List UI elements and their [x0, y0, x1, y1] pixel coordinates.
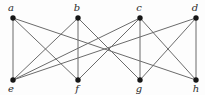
- node-c: [137, 15, 142, 20]
- node-g: [137, 77, 142, 82]
- node-b: [75, 15, 80, 20]
- labels-layer: abcdefgh: [8, 2, 199, 94]
- node-label-f: f: [74, 83, 81, 94]
- graph-figure: abcdefgh: [0, 0, 205, 95]
- edges-layer: [13, 18, 196, 80]
- node-a: [10, 15, 15, 20]
- node-label-c: c: [136, 2, 142, 13]
- node-d: [193, 15, 198, 20]
- node-label-d: d: [192, 2, 198, 13]
- graph-canvas: abcdefgh: [0, 0, 205, 95]
- node-h: [193, 77, 198, 82]
- node-label-e: e: [8, 83, 14, 94]
- node-label-g: g: [136, 83, 142, 94]
- node-label-h: h: [193, 83, 199, 94]
- node-e: [10, 77, 15, 82]
- edge-c-e: [13, 18, 140, 80]
- node-label-a: a: [8, 2, 14, 13]
- node-label-b: b: [74, 2, 80, 13]
- node-f: [75, 77, 80, 82]
